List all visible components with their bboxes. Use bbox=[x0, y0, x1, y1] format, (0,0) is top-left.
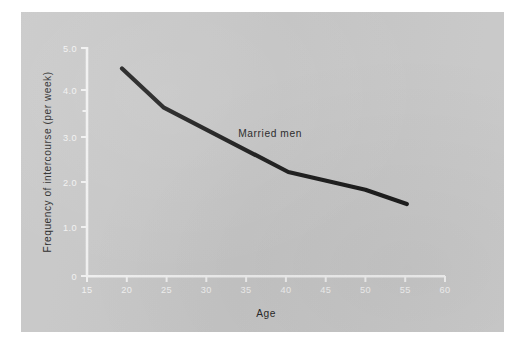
series-annotation-married-men: Married men bbox=[238, 128, 302, 139]
x-axis-ticks: 15 20 25 30 35 40 45 50 55 60 bbox=[81, 276, 450, 295]
y-tick-label-2: 2.0 bbox=[63, 178, 77, 188]
line-chart: 5.0 4.0 3.0 2.0 1.0 0 bbox=[21, 12, 504, 332]
x-tick-label-15: 15 bbox=[81, 285, 92, 295]
x-axis-title: Age bbox=[256, 308, 276, 319]
y-tick-label-0: 0 bbox=[71, 272, 77, 282]
y-tick-label-3: 3.0 bbox=[63, 133, 77, 143]
x-tick-label-35: 35 bbox=[241, 285, 252, 295]
x-tick-label-45: 45 bbox=[320, 285, 331, 295]
x-tick-label-25: 25 bbox=[161, 285, 172, 295]
y-tick-label-4: 4.0 bbox=[63, 86, 77, 96]
x-tick-label-40: 40 bbox=[280, 285, 291, 295]
x-tick-label-60: 60 bbox=[439, 285, 450, 295]
y-tick-label-5: 5.0 bbox=[63, 44, 77, 54]
y-axis-ticks: 5.0 4.0 3.0 2.0 1.0 0 bbox=[63, 44, 87, 282]
x-tick-label-30: 30 bbox=[201, 285, 212, 295]
figure-canvas: 5.0 4.0 3.0 2.0 1.0 0 bbox=[0, 0, 525, 345]
chart-plate: 5.0 4.0 3.0 2.0 1.0 0 bbox=[21, 12, 504, 332]
y-tick-label-1: 1.0 bbox=[63, 223, 77, 233]
x-tick-label-55: 55 bbox=[400, 285, 411, 295]
chart-svg-container: 5.0 4.0 3.0 2.0 1.0 0 bbox=[21, 12, 504, 332]
x-tick-label-50: 50 bbox=[360, 285, 371, 295]
x-tick-label-20: 20 bbox=[121, 285, 132, 295]
y-axis-title: Frequency of intercourse (per week) bbox=[42, 71, 53, 252]
